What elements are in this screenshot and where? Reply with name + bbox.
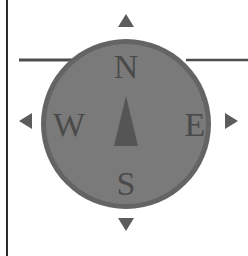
west-label: W (53, 106, 86, 143)
arrow-up-icon[interactable] (118, 14, 134, 27)
compass-widget: N E S W (0, 0, 248, 256)
arrow-right-icon[interactable] (225, 113, 238, 129)
south-label: S (117, 165, 136, 202)
arrow-down-icon[interactable] (118, 218, 134, 231)
north-label: N (114, 48, 139, 85)
arrow-left-icon[interactable] (19, 113, 32, 129)
compass-graphic: N E S W (0, 0, 248, 256)
east-label: E (185, 106, 206, 143)
